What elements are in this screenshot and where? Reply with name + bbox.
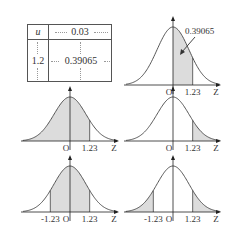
tick-label-1-23: 1.23 — [185, 87, 201, 97]
origin-label: O — [166, 214, 173, 224]
y-axis-arrow-icon — [68, 155, 72, 160]
origin-label: O — [166, 143, 173, 153]
y-axis-arrow-icon — [68, 86, 72, 91]
plot-p-greater-1-23: OZ1.23 — [124, 86, 221, 153]
tick-label-1-23: 1.23 — [82, 214, 98, 224]
origin-label: O — [63, 143, 70, 153]
plot-p-less-1-23: OZ1.23 — [21, 86, 119, 153]
callout-label-0-39065: 0.39065 — [185, 26, 215, 36]
shaded-area — [23, 97, 90, 141]
shaded-area — [193, 120, 220, 141]
z-axis-label: Z — [111, 214, 117, 224]
tick-label-neg-1-23: -1.23 — [144, 214, 163, 224]
tick-label-1-23: 1.23 — [82, 143, 98, 153]
figure: u 0.03 1.2 0.39065 OZ1.230.39065OZ1.23OZ… — [0, 0, 240, 239]
normal-curve-plots: OZ1.230.39065OZ1.23OZ1.23OZ-1.231.23OZ-1… — [0, 0, 240, 239]
y-axis-arrow-icon — [171, 16, 175, 21]
plot-p-between: OZ-1.231.23 — [21, 155, 119, 224]
tick-label-1-23: 1.23 — [185, 143, 201, 153]
z-axis-label: Z — [111, 143, 117, 153]
tick-label-neg-1-23: -1.23 — [41, 214, 60, 224]
z-axis-label: Z — [213, 143, 219, 153]
plot-p-two-tails: OZ-1.231.23 — [124, 155, 221, 224]
shaded-area — [126, 190, 153, 212]
z-axis-label: Z — [213, 87, 219, 97]
origin-label: O — [63, 214, 70, 224]
shaded-area — [193, 190, 220, 212]
z-axis-label: Z — [213, 214, 219, 224]
plot-p-0-to-1-23: OZ1.230.39065 — [124, 16, 221, 97]
origin-label: O — [166, 87, 173, 97]
y-axis-arrow-icon — [171, 155, 175, 160]
tick-label-1-23: 1.23 — [185, 214, 201, 224]
